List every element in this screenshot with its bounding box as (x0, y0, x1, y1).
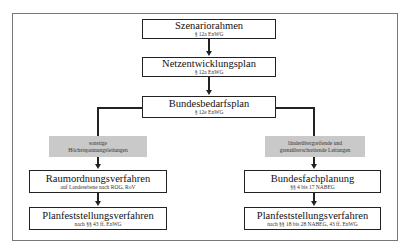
box-title: Bundesfachplanung (271, 173, 354, 184)
box-subtitle: § 12a EnWG (195, 31, 224, 38)
box-title: Planfeststellungsverfahren (42, 210, 153, 221)
arrow-down-icon (95, 164, 101, 169)
arrow-down-icon (206, 51, 212, 56)
connector-line (97, 193, 99, 201)
box-subtitle: nach §§ 18 bis 28 NABEG, 43 ff. EnWG (267, 221, 357, 228)
box-title: Netzentwicklungsplan (162, 58, 256, 69)
left-category-label: sonstige Höchstspannungsleitungen (49, 136, 147, 157)
regional-planning-procedure-box: Raumordnungsverfahren auf Landesebene na… (29, 170, 167, 193)
branch-line-right-horizontal (276, 107, 314, 109)
connector-line (208, 77, 210, 91)
arrow-down-icon (311, 201, 317, 206)
box-title: Planfeststellungsverfahren (257, 210, 368, 221)
box-title: Szenariorahmen (175, 20, 243, 31)
category-line: sonstige (89, 140, 107, 147)
right-plan-approval-procedure-box: Planfeststellungsverfahren nach §§ 18 bi… (244, 207, 381, 230)
arrow-down-icon (206, 90, 212, 95)
category-line: grenzüberschreitende Leitungen (280, 147, 351, 154)
scenario-framework-box: Szenariorahmen § 12a EnWG (142, 19, 276, 39)
network-development-plan-box: Netzentwicklungsplan § 12a EnWG (142, 57, 276, 77)
branch-line-left-horizontal (97, 107, 142, 109)
box-subtitle: §§ 4 bis 17 NABEG (290, 184, 335, 191)
box-subtitle: § 12e EnWG (195, 109, 224, 116)
branch-line-right-vertical (313, 107, 315, 136)
branch-line-left-vertical (97, 107, 99, 136)
box-subtitle: nach §§ 43 ff. EnWG (74, 221, 121, 228)
arrow-down-icon (95, 201, 101, 206)
right-category-label: länderübergreifende und grenzüberschreit… (265, 136, 365, 157)
box-title: Bundesbedarfsplan (169, 98, 249, 109)
left-plan-approval-procedure-box: Planfeststellungsverfahren nach §§ 43 ff… (29, 207, 167, 230)
category-line: Höchstspannungsleitungen (68, 147, 127, 154)
category-line: länderübergreifende und (288, 140, 342, 147)
federal-requirements-plan-box: Bundesbedarfsplan § 12e EnWG (142, 96, 276, 118)
connector-line (313, 193, 315, 201)
box-subtitle: auf Landesebene nach ROG, RoV (61, 184, 136, 191)
federal-sectoral-planning-box: Bundesfachplanung §§ 4 bis 17 NABEG (244, 170, 381, 193)
arrow-down-icon (311, 164, 317, 169)
box-title: Raumordnungsverfahren (46, 173, 150, 184)
box-subtitle: § 12a EnWG (195, 69, 224, 76)
